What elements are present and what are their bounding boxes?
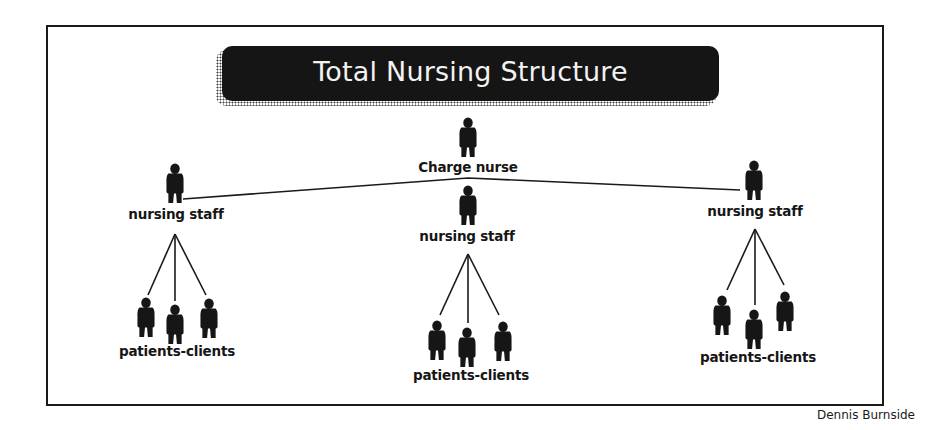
person-icon-patient bbox=[776, 292, 793, 331]
patients-left-label: patients-clients bbox=[119, 343, 235, 359]
person-icon-staff-center bbox=[459, 186, 476, 225]
staff-right-label: nursing staff bbox=[707, 203, 802, 219]
person-icon-patient bbox=[745, 310, 762, 349]
person-icon-patient bbox=[137, 298, 154, 337]
person-icon-patient bbox=[200, 299, 217, 338]
edge-staff-left-to-patient-3 bbox=[175, 234, 206, 295]
staff-left-label: nursing staff bbox=[128, 206, 223, 222]
edge-staff-center-to-patient-3 bbox=[468, 254, 499, 315]
person-icon-charge-nurse bbox=[459, 118, 476, 157]
author-credit: Dennis Burnside bbox=[817, 408, 915, 422]
person-icon-patient bbox=[428, 321, 445, 360]
person-icon-patient bbox=[494, 322, 511, 361]
edge-staff-center-to-patient-1 bbox=[440, 254, 468, 315]
person-icon-staff-left bbox=[166, 164, 183, 203]
staff-center-label: nursing staff bbox=[419, 228, 514, 244]
patients-center-label: patients-clients bbox=[413, 367, 529, 383]
patients-right-label: patients-clients bbox=[700, 349, 816, 365]
edge-staff-left-to-patient-1 bbox=[148, 234, 175, 295]
person-icon-patient bbox=[166, 305, 183, 344]
edge-staff-right-to-patient-1 bbox=[727, 229, 755, 290]
person-icon-patient bbox=[458, 328, 475, 367]
person-icon-staff-right bbox=[745, 161, 762, 200]
edge-staff-right-to-patient-3 bbox=[755, 229, 784, 285]
person-icon-patient bbox=[713, 296, 730, 335]
charge-nurse-label: Charge nurse bbox=[418, 159, 517, 175]
